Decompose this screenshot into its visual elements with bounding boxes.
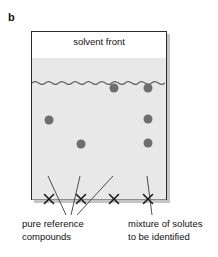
spot-lane1-a (45, 116, 54, 125)
spot-lane4-b (144, 115, 153, 124)
spot-lane3-a (110, 84, 119, 93)
origin-mark-lane2 (75, 193, 88, 206)
spot-lane4-a (144, 84, 153, 93)
caption-left-line-2: compounds (22, 231, 117, 244)
caption-right-line-2: to be identified (128, 231, 218, 244)
figure-root: b solvent front (0, 0, 218, 257)
caption-mixture-of-solutes: mixture of solutes to be identified (128, 218, 218, 243)
origin-mark-lane1 (43, 193, 56, 206)
origin-mark-lane4 (142, 193, 155, 206)
plate-body (32, 58, 166, 199)
chromatography-plate: solvent front (31, 31, 167, 200)
spot-lane2-a (77, 140, 86, 149)
caption-right-line-1: mixture of solutes (128, 218, 218, 231)
panel-letter: b (8, 12, 15, 23)
spot-lane4-c (144, 139, 153, 148)
origin-mark-lane3 (108, 193, 121, 206)
caption-left-line-1: pure reference (22, 218, 117, 231)
caption-pure-reference-compounds: pure reference compounds (22, 218, 117, 243)
solvent-front-label: solvent front (32, 37, 166, 47)
solvent-front-band: solvent front (32, 32, 166, 57)
